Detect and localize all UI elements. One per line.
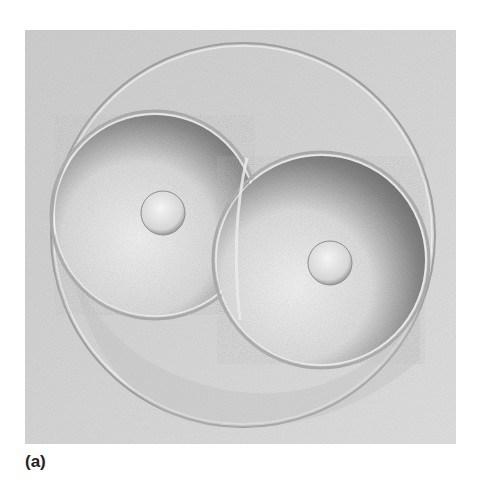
- left-nucleus: [141, 191, 185, 235]
- right-blastomere: [213, 152, 429, 368]
- panel-label: (a): [25, 452, 46, 472]
- embryo-illustration: [25, 30, 456, 444]
- embryo-photomicrograph: [25, 30, 456, 444]
- right-nucleus: [308, 241, 352, 285]
